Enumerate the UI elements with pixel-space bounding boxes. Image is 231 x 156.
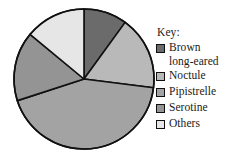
legend-swatch-icon [156, 44, 165, 53]
legend-title: Key: [157, 26, 231, 39]
legend-item-label: Brown long-eared [169, 41, 219, 68]
legend-item-label: Pipistrelle [169, 85, 216, 99]
chart-legend: Key: Brown long-earedNoctulePipistrelleS… [156, 26, 231, 133]
legend-swatch-icon [156, 72, 165, 81]
legend-item[interactable]: Others [156, 117, 231, 132]
legend-item[interactable]: Pipistrelle [156, 85, 231, 100]
pie-chart-figure: Key: Brown long-earedNoctulePipistrelleS… [0, 0, 231, 156]
pie-chart-svg [10, 5, 155, 153]
legend-item-label: Noctule [169, 69, 206, 83]
legend-items-list: Brown long-earedNoctulePipistrelleSeroti… [156, 41, 231, 132]
legend-swatch-icon [156, 120, 165, 129]
legend-item[interactable]: Brown long-eared [156, 41, 231, 68]
legend-swatch-icon [156, 88, 165, 97]
legend-swatch-icon [156, 104, 165, 113]
legend-item[interactable]: Noctule [156, 69, 231, 84]
pie-chart [10, 5, 155, 153]
legend-item-label: Others [169, 117, 200, 131]
legend-item-label: Serotine [169, 101, 208, 115]
legend-item[interactable]: Serotine [156, 101, 231, 116]
